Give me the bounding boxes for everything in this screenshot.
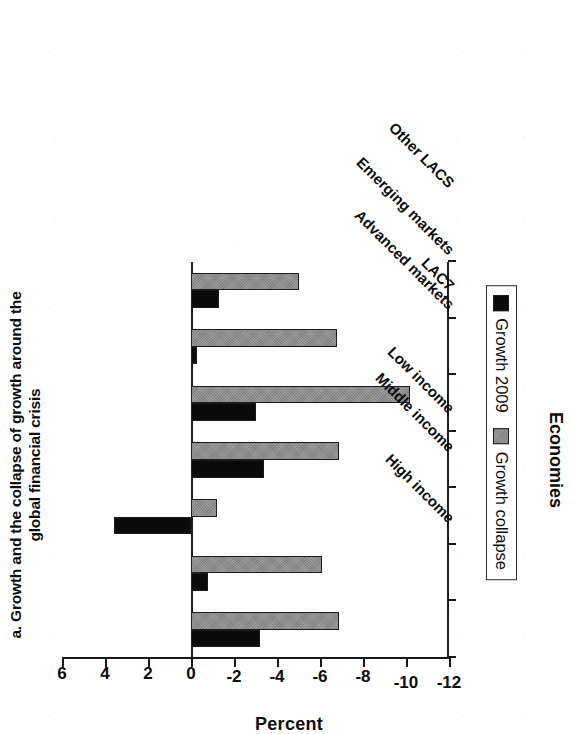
category-tick bbox=[448, 373, 456, 375]
value-tick-label-text: 0 bbox=[186, 665, 195, 685]
legend-swatch-dark-icon bbox=[494, 295, 510, 311]
category-tick bbox=[448, 317, 456, 319]
bar-growth-2009 bbox=[62, 290, 449, 308]
value-tick-label-text: -4 bbox=[269, 668, 284, 688]
value-tick bbox=[277, 658, 279, 667]
bar-rect bbox=[191, 290, 219, 308]
value-tick bbox=[363, 658, 365, 667]
value-tick-label-text: -6 bbox=[312, 668, 327, 688]
value-tick bbox=[406, 658, 408, 667]
category-tick bbox=[448, 486, 456, 488]
category-axis-title: Economies bbox=[545, 262, 566, 658]
chart-title-line-1: a. Growth and the collapse of growth aro… bbox=[6, 230, 25, 700]
bar-growth-collapse bbox=[62, 612, 449, 630]
bar-group bbox=[62, 612, 449, 647]
category-label-text: Other LACS bbox=[386, 119, 458, 191]
bar-rect bbox=[191, 273, 299, 291]
category-tick bbox=[448, 656, 456, 658]
chart-title-line-2: global financial crisis bbox=[25, 230, 44, 700]
bar-growth-2009 bbox=[62, 573, 449, 591]
value-tick-label-text: 4 bbox=[100, 665, 109, 685]
legend-swatch-gray-icon bbox=[494, 429, 510, 445]
bar-rect bbox=[191, 442, 339, 460]
bar-rect bbox=[191, 347, 197, 365]
value-tick-label: 4 bbox=[95, 670, 115, 679]
value-tick-label: -2 bbox=[224, 670, 244, 685]
category-tick bbox=[448, 260, 456, 262]
bar-growth-2009 bbox=[62, 517, 449, 535]
value-tick-label-text: -10 bbox=[394, 672, 419, 692]
value-tick-label-text: 2 bbox=[143, 665, 152, 685]
bar-rect bbox=[191, 630, 260, 648]
value-tick-label: 6 bbox=[52, 670, 72, 679]
value-tick-label-text: -12 bbox=[437, 672, 462, 692]
value-tick-label-text: 6 bbox=[57, 665, 66, 685]
category-tick bbox=[448, 430, 456, 432]
bar-rect bbox=[191, 460, 264, 478]
bar-growth-collapse bbox=[62, 273, 449, 291]
bar-growth-collapse bbox=[62, 499, 449, 517]
value-tick-label: 2 bbox=[138, 670, 158, 679]
legend-label-growth-collapse: Growth collapse bbox=[492, 452, 511, 570]
category-tick bbox=[448, 599, 456, 601]
legend-item-growth-2009: Growth 2009 bbox=[492, 295, 511, 412]
category-label: Other LACS bbox=[386, 119, 458, 191]
bar-rect bbox=[191, 329, 337, 347]
category-tick bbox=[448, 543, 456, 545]
bar-rect bbox=[191, 556, 322, 574]
legend-item-growth-collapse: Growth collapse bbox=[492, 429, 511, 570]
legend-label-growth-2009: Growth 2009 bbox=[492, 318, 511, 412]
bar-rect bbox=[191, 386, 410, 404]
value-tick bbox=[234, 658, 236, 667]
value-tick bbox=[320, 658, 322, 667]
bar-group bbox=[62, 556, 449, 591]
bar-rect bbox=[114, 517, 191, 535]
value-axis-line bbox=[62, 657, 449, 659]
value-tick-label: -6 bbox=[310, 670, 330, 685]
legend: Growth 2009 Growth collapse bbox=[486, 285, 517, 580]
plot-area: 6420-2-4-6-8-10-12 High incomeMiddle inc… bbox=[62, 262, 449, 658]
chart-title: a. Growth and the collapse of growth aro… bbox=[6, 230, 45, 700]
value-tick bbox=[449, 658, 451, 667]
value-tick-label-text: -8 bbox=[355, 668, 370, 688]
bar-growth-collapse bbox=[62, 556, 449, 574]
bar-growth-2009 bbox=[62, 630, 449, 648]
bar-rect bbox=[191, 403, 256, 421]
value-tick-label: -10 bbox=[396, 670, 416, 695]
value-tick-label: 0 bbox=[181, 670, 201, 679]
bar-rect bbox=[191, 499, 217, 517]
bar-group bbox=[62, 499, 449, 534]
bar-rect bbox=[191, 573, 208, 591]
value-tick-label-text: -2 bbox=[226, 668, 241, 688]
bar-growth-2009 bbox=[62, 403, 449, 421]
bar-rect bbox=[191, 612, 339, 630]
bar-group bbox=[62, 273, 449, 308]
value-tick-label: -8 bbox=[353, 670, 373, 685]
bar-growth-collapse bbox=[62, 329, 449, 347]
value-axis-title: Percent bbox=[255, 714, 323, 734]
value-tick-label: -4 bbox=[267, 670, 287, 685]
value-tick-label: -12 bbox=[439, 670, 459, 695]
